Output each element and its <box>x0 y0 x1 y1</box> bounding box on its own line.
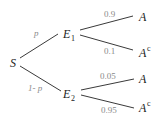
node-e1-subscript: 1 <box>71 34 75 43</box>
edge-label-1-minus-p: 1- p <box>28 83 43 93</box>
node-e1-ac-superscript: c <box>147 44 151 53</box>
node-e2-a-label: A <box>138 72 147 86</box>
node-s: S <box>10 56 16 70</box>
node-e1-ac: A c <box>138 44 151 60</box>
probability-tree-diagram: S E 1 E 2 p 1- p A A c A A c 0.9 0.1 0.0… <box>0 0 158 124</box>
node-e1: E 1 <box>62 27 75 43</box>
edge-label-p: p <box>33 28 39 38</box>
edge-label-0-9: 0.9 <box>104 9 116 19</box>
node-e1-a: A <box>138 10 147 24</box>
edge-s-e1 <box>20 34 58 58</box>
node-e2-label: E <box>62 87 71 101</box>
node-e2-ac-label: A <box>138 101 147 115</box>
node-e2: E 2 <box>62 87 75 103</box>
node-e2-subscript: 2 <box>71 94 75 103</box>
edge-label-0-1: 0.1 <box>104 46 115 56</box>
node-e1-label: E <box>62 27 71 41</box>
edge-label-0-95: 0.95 <box>101 105 117 115</box>
edge-label-0-05: 0.05 <box>100 71 116 81</box>
node-e2-ac: A c <box>138 99 151 115</box>
node-e2-a: A <box>138 72 147 86</box>
node-e1-ac-label: A <box>138 46 147 60</box>
node-e2-ac-superscript: c <box>147 99 151 108</box>
node-e1-a-label: A <box>138 10 147 24</box>
